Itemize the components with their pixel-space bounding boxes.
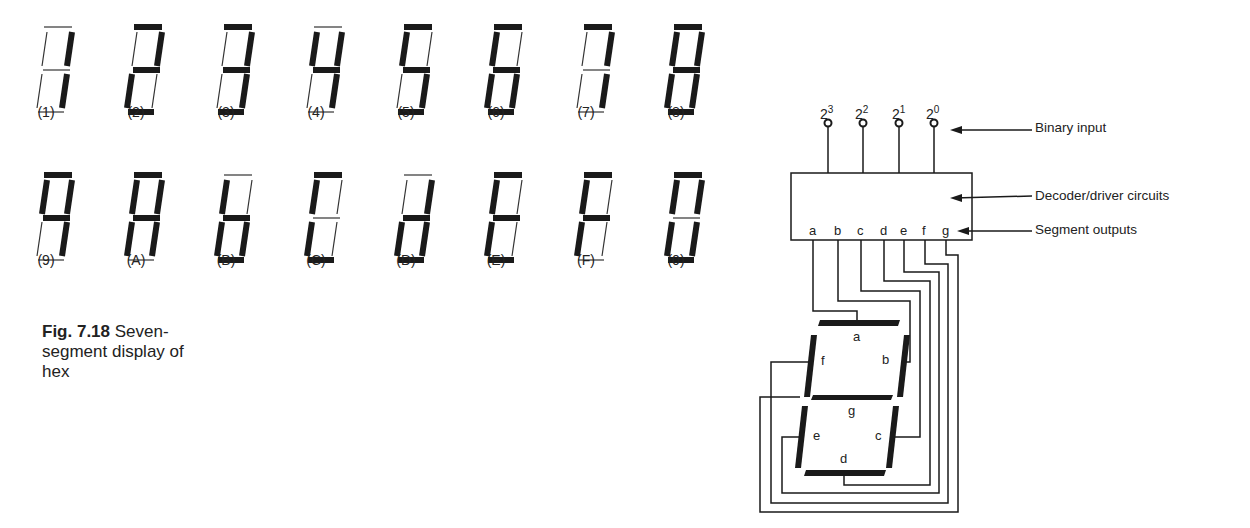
segment-e (307, 222, 312, 256)
digit-label: (7) (566, 104, 606, 120)
hex-digit: (B) (210, 170, 250, 270)
segment-e (397, 222, 402, 256)
segment-b (247, 180, 252, 214)
segment-b (337, 180, 342, 214)
segment-f (312, 32, 317, 66)
segment-f (582, 32, 587, 66)
segment-b (337, 32, 342, 66)
segment-f (402, 180, 407, 214)
digit-label: (5) (386, 104, 426, 120)
input-2-1: 21 (892, 104, 905, 122)
digit-label: (6) (476, 104, 516, 120)
output-g: g (942, 223, 949, 238)
segment-e (307, 74, 312, 108)
segment-e (217, 222, 222, 256)
segment-c (152, 74, 157, 108)
digit-label: (0) (656, 252, 696, 268)
segment-e (667, 74, 672, 108)
hex-digit: (1) (30, 22, 70, 122)
segment-b (607, 180, 612, 214)
callout-segment-outputs: Segment outputs (1035, 222, 1137, 237)
segment-f (222, 32, 227, 66)
input-2-2: 22 (855, 104, 868, 122)
segment-label-d: d (840, 451, 847, 466)
segment-c (332, 222, 337, 256)
segment-e (37, 74, 42, 108)
segment-f (492, 32, 497, 66)
segment-f (222, 180, 227, 214)
segment-b (517, 180, 522, 214)
input-2-3: 23 (820, 104, 833, 122)
segment-e (127, 74, 132, 108)
hex-digit: (2) (120, 22, 160, 122)
segment-e (577, 74, 582, 108)
segment-c (602, 222, 607, 256)
segment-e (487, 74, 492, 108)
figure-number: Fig. 7.18 (42, 322, 110, 341)
digit-label: (F) (566, 252, 606, 268)
output-b: b (834, 223, 841, 238)
output-d: d (880, 223, 887, 238)
caption-line-1: Seven- (115, 322, 169, 341)
segment-f (42, 32, 47, 66)
segment-e (127, 222, 132, 256)
output-f: f (922, 223, 926, 238)
hex-digit: (C) (300, 170, 340, 270)
segment-c (152, 222, 157, 256)
segment-c (242, 222, 247, 256)
segment-b (247, 32, 252, 66)
input-2-0: 20 (926, 104, 939, 122)
segment-c (512, 74, 517, 108)
segment-c (422, 74, 427, 108)
hex-digit: (F) (570, 170, 610, 270)
hex-digit: (A) (120, 170, 160, 270)
segment-label-c: c (875, 428, 882, 443)
segment-b (697, 32, 702, 66)
segment-b (157, 32, 162, 66)
segment-b (607, 32, 612, 66)
hex-digit: (D) (390, 170, 430, 270)
decoder-diagram: 23 22 21 20 a b c d e f g Binary input D… (740, 100, 1250, 528)
segment-e (577, 222, 582, 256)
segment-c (692, 74, 697, 108)
segment-c (332, 74, 337, 108)
output-e: e (900, 223, 907, 238)
segment-label-f: f (821, 353, 825, 368)
segment-c (62, 74, 67, 108)
segment-f (42, 180, 47, 214)
segment-b (697, 180, 702, 214)
segment-e (487, 222, 492, 256)
digit-label: (4) (296, 104, 336, 120)
hex-digit: (E) (480, 170, 520, 270)
segment-b (517, 32, 522, 66)
digit-label: (D) (386, 252, 426, 268)
segment-c (692, 222, 697, 256)
digit-label: (A) (116, 252, 156, 268)
hex-digit: (8) (660, 22, 700, 122)
callout-binary-input: Binary input (1035, 120, 1106, 135)
hex-digit: (9) (30, 170, 70, 270)
caption-line-2: segment display of (42, 342, 184, 361)
output-c: c (857, 223, 864, 238)
digit-label: (2) (116, 104, 156, 120)
output-a: a (809, 223, 816, 238)
segment-b (67, 180, 72, 214)
segment-f (132, 32, 137, 66)
segment-f (672, 180, 677, 214)
segment-b (427, 180, 432, 214)
digit-label: (9) (26, 252, 66, 268)
segment-f (402, 32, 407, 66)
hex-digit: (6) (480, 22, 520, 122)
segment-c (242, 74, 247, 108)
segment-e (217, 74, 222, 108)
digit-label: (E) (476, 252, 516, 268)
segment-f (132, 180, 137, 214)
segment-c (602, 74, 607, 108)
hex-digit: (7) (570, 22, 610, 122)
segment-label-g: g (848, 403, 855, 418)
segment-c (62, 222, 67, 256)
segment-f (582, 180, 587, 214)
segment-label-a: a (853, 329, 860, 344)
digit-label: (1) (26, 104, 66, 120)
segment-b (67, 32, 72, 66)
